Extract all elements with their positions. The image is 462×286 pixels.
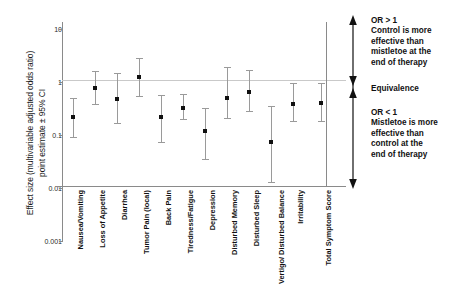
x-category-label: Disturbed Sleep: [253, 190, 263, 286]
x-category-label: Tiredness/Fatigue: [187, 190, 197, 286]
error-bar-cap-lower: [202, 159, 209, 160]
annotation-equivalence: Equivalence: [371, 84, 461, 94]
annotation-or-greater-than-1: OR > 1 Control is more effective than mi…: [371, 16, 461, 68]
point-estimate-marker: [203, 129, 207, 133]
point-estimate-marker: [71, 115, 75, 119]
error-bar-cap-lower: [180, 119, 187, 120]
x-category-label: Disturbed Memory: [231, 190, 241, 286]
error-bar-cap-lower: [92, 104, 99, 105]
error-bar-cap-upper: [224, 67, 231, 68]
annotation-or-less-than-1: OR < 1 Mistletoe is more effective than …: [371, 108, 461, 160]
x-category-label: Total Symptom Score: [325, 190, 335, 286]
point-estimate-marker: [225, 96, 229, 100]
y-tick-label: 10: [28, 26, 62, 33]
point-estimate-marker: [247, 90, 251, 94]
error-bar-cap-lower: [268, 182, 275, 183]
error-bar-cap-upper: [290, 83, 297, 84]
annotation-top-line-1: OR > 1: [371, 16, 461, 26]
error-bar-cap-lower: [114, 123, 121, 124]
y-tick-label: 0.001: [28, 238, 62, 245]
error-bar-cap-lower: [70, 137, 77, 138]
annotation-bottom-line-5: end of therapy: [371, 150, 461, 160]
total-score-separator-line: [326, 22, 327, 186]
error-bar-cap-lower: [290, 121, 297, 122]
forest-plot-figure: Effect size (multivariable adjusted odds…: [0, 0, 462, 286]
direction-arrow-icon: [340, 14, 366, 190]
error-bar-cap-lower: [136, 96, 143, 97]
x-category-label: Irritability: [297, 190, 307, 286]
annotation-bottom-line-1: OR < 1: [371, 108, 461, 118]
error-bar-cap-upper: [92, 71, 99, 72]
point-estimate-marker: [291, 102, 295, 106]
y-axis-ticks: 1010.10.010.001: [20, 0, 62, 286]
error-bar-cap-lower: [158, 142, 165, 143]
error-bar-cap-upper: [246, 70, 253, 71]
point-estimate-marker: [115, 97, 119, 101]
annotation-middle-line-1: Equivalence: [371, 84, 461, 94]
error-bar-cap-upper: [158, 95, 165, 96]
point-estimate-marker: [159, 115, 163, 119]
annotation-top-line-4: mistletoe at the: [371, 47, 461, 57]
y-tick-label: 0.1: [28, 132, 62, 139]
error-bar-line: [205, 108, 206, 160]
point-estimate-marker: [269, 140, 273, 144]
annotation-bottom-line-4: control at the: [371, 139, 461, 149]
annotation-top-line-3: effective than: [371, 37, 461, 47]
x-category-label: Nausea/Vomiting: [77, 190, 87, 286]
error-bar-line: [227, 67, 228, 118]
error-bar-cap-upper: [202, 108, 209, 109]
error-bar-cap-upper: [268, 106, 275, 107]
annotation-top-line-5: end of therapy: [371, 58, 461, 68]
annotation-top-line-2: Control is more: [371, 26, 461, 36]
point-estimate-marker: [319, 101, 323, 105]
point-estimate-marker: [137, 75, 141, 79]
x-category-label: Diarrhea: [121, 190, 131, 286]
error-bar-cap-lower: [224, 118, 231, 119]
error-bar-cap-lower: [318, 121, 325, 122]
plot-area: [62, 22, 326, 186]
error-bar-line: [271, 106, 272, 182]
error-bar-cap-upper: [114, 73, 121, 74]
point-estimate-marker: [93, 86, 97, 90]
x-category-label: Tumor Pain (local): [143, 190, 153, 286]
annotation-bottom-line-3: effective than: [371, 129, 461, 139]
y-tick-label: 1: [28, 79, 62, 86]
x-category-label: Back Pain: [165, 190, 175, 286]
annotation-bottom-line-2: Mistletoe is more: [371, 118, 461, 128]
x-category-label: Depression: [209, 190, 219, 286]
x-category-label: Loss of Appetite: [99, 190, 109, 286]
error-bar-cap-upper: [318, 83, 325, 84]
error-bar-cap-upper: [180, 94, 187, 95]
error-bar-cap-upper: [70, 98, 77, 99]
error-bar-cap-lower: [246, 111, 253, 112]
x-category-label: Vertigo/ Disturbed Balance: [278, 190, 296, 286]
point-estimate-marker: [181, 106, 185, 110]
x-axis-line: [56, 186, 346, 187]
error-bar-cap-upper: [136, 58, 143, 59]
